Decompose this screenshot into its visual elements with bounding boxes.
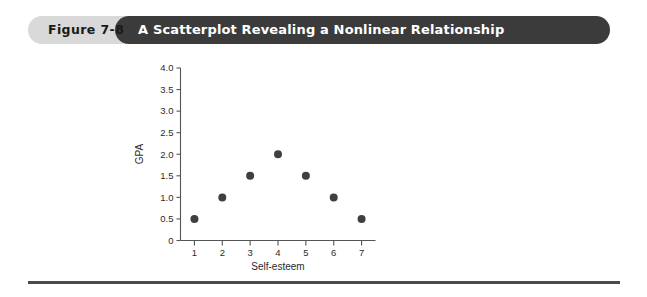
data-point <box>274 150 282 158</box>
data-point <box>190 215 198 223</box>
y-tick-label: 3.0 <box>160 105 173 116</box>
data-point <box>218 193 226 201</box>
x-tick-label: 1 <box>192 247 197 258</box>
bottom-divider <box>28 281 620 284</box>
y-tick-label: 2.0 <box>160 149 173 160</box>
figure-number-label: Figure 7-8 <box>48 16 124 44</box>
data-point-group <box>190 150 365 223</box>
y-tick-label: 1.5 <box>160 170 173 181</box>
x-tick-label: 7 <box>359 247 364 258</box>
figure-header: Figure 7-8 A Scatterplot Revealing a Non… <box>28 16 610 44</box>
x-axis-title: Self-esteem <box>251 261 304 272</box>
y-tick-label: 0.5 <box>160 213 173 224</box>
data-point <box>246 172 254 180</box>
x-axis-tick-labels: 1234567 <box>192 247 364 258</box>
x-tick-label: 3 <box>247 247 252 258</box>
y-tick-label: 2.5 <box>160 127 173 138</box>
x-tick-label: 6 <box>331 247 336 258</box>
data-point <box>330 193 338 201</box>
y-tick-label: 4.0 <box>160 62 173 73</box>
x-tick-label: 4 <box>275 247 280 258</box>
y-tick-label: 1.0 <box>160 192 173 203</box>
y-axis-ticks <box>177 68 181 241</box>
x-axis-ticks <box>194 241 361 246</box>
y-axis-tick-labels: 00.51.01.52.02.53.03.54.0 <box>160 62 173 246</box>
y-tick-label: 0 <box>168 235 173 246</box>
chart-canvas: 00.51.01.52.02.53.03.54.0 1234567 GPA Se… <box>0 0 647 297</box>
data-point <box>302 172 310 180</box>
data-point <box>358 215 366 223</box>
figure-title: A Scatterplot Revealing a Nonlinear Rela… <box>138 16 504 44</box>
x-tick-label: 2 <box>220 247 225 258</box>
x-tick-label: 5 <box>303 247 308 258</box>
y-axis-title: GPA <box>134 143 145 164</box>
scatterplot: 00.51.01.52.02.53.03.54.0 1234567 GPA Se… <box>0 0 647 297</box>
y-tick-label: 3.5 <box>160 84 173 95</box>
